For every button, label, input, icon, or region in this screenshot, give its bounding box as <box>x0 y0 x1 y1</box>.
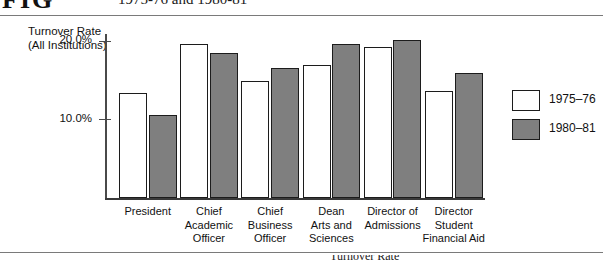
y-tick-label: 10.0% <box>30 112 92 124</box>
bar <box>241 81 269 198</box>
y-axis-line <box>105 34 107 198</box>
y-tick-200 <box>99 41 111 42</box>
bar <box>303 65 331 198</box>
bar <box>119 93 147 198</box>
x-axis-label-line: Sciences <box>289 232 373 246</box>
y-tick-label: 20.0% <box>30 33 92 45</box>
figure-number: FIG <box>2 0 54 13</box>
bar <box>149 115 177 198</box>
bar <box>180 44 208 198</box>
bar <box>364 47 392 198</box>
horizontal-rule-bottom <box>0 252 603 253</box>
figure-title-crop: FIG 1975-76 and 1980-81 <box>0 0 603 13</box>
legend-label-1980: 1980–81 <box>549 121 596 135</box>
bottom-caption-text: Turnover Rate <box>330 255 399 264</box>
x-axis-label-line: Director <box>412 205 496 219</box>
bottom-caption-crop: Turnover Rate <box>0 255 603 264</box>
bar <box>210 53 238 198</box>
figure-caption: 1975-76 and 1980-81 <box>118 0 247 8</box>
bar <box>271 68 299 198</box>
bar <box>455 73 483 198</box>
legend-item-1975[interactable]: 1975–76 <box>507 88 601 117</box>
x-axis-label-line: Financial Aid <box>412 232 496 246</box>
x-axis-line <box>105 198 485 200</box>
x-axis-label-line: Student <box>412 219 496 233</box>
legend-label-1975: 1975–76 <box>549 92 596 106</box>
bar <box>393 40 421 198</box>
bar <box>425 91 453 198</box>
chart-legend: 1975–76 1980–81 <box>507 88 601 146</box>
bar <box>332 44 360 198</box>
y-tick-100 <box>99 119 111 120</box>
legend-swatch-1975 <box>512 90 540 111</box>
x-axis-label: DirectorStudentFinancial Aid <box>412 205 496 246</box>
bar-chart: Turnover Rate (All Institutions) 10.0%20… <box>0 16 603 252</box>
legend-swatch-1980 <box>512 119 540 140</box>
legend-item-1980[interactable]: 1980–81 <box>507 117 601 146</box>
